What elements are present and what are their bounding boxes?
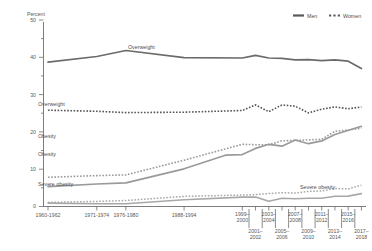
svg-text:1976-1980: 1976-1980: [113, 212, 138, 218]
series-line-severe-obesity-men: [48, 194, 361, 204]
series-line-obesity-women: [48, 128, 361, 177]
svg-text:2014: 2014: [329, 234, 341, 240]
svg-text:2001–: 2001–: [248, 228, 263, 234]
svg-text:40: 40: [30, 54, 36, 60]
svg-text:30: 30: [30, 92, 36, 98]
svg-text:2018: 2018: [356, 234, 368, 240]
svg-text:0: 0: [33, 203, 36, 209]
svg-text:2004: 2004: [263, 217, 275, 223]
legend-label-women: Women: [343, 13, 361, 19]
svg-text:2015–: 2015–: [341, 211, 356, 217]
annotation-severe-obesity-men: Severe obesity: [300, 184, 335, 190]
svg-text:20: 20: [30, 129, 36, 135]
x-axis-labels-row1: 1960-1962 1971-1974 1976-1980 1988-1994: [36, 212, 197, 218]
svg-text:2006: 2006: [276, 234, 288, 240]
annotation-obesity-women: Obesity: [38, 133, 56, 139]
svg-text:1988-1994: 1988-1994: [172, 212, 197, 218]
series-line-obesity-men: [48, 126, 361, 186]
svg-text:10: 10: [30, 166, 36, 172]
svg-text:2002: 2002: [250, 234, 262, 240]
legend-label-men: Men: [307, 13, 317, 19]
svg-text:2009–: 2009–: [301, 228, 316, 234]
svg-text:2011–: 2011–: [315, 211, 329, 217]
line-chart-canvas: Percent 0 10 20 30 40 50: [0, 0, 372, 251]
y-axis-labels: 0 10 20 30 40 50: [30, 17, 36, 210]
svg-text:2008: 2008: [289, 217, 301, 223]
svg-text:1999–: 1999–: [235, 211, 250, 217]
annotation-overweight-women: Overweight: [38, 101, 65, 107]
annotation-obesity-men: Obesity: [38, 151, 56, 157]
chart-legend: Men Women: [293, 13, 361, 19]
svg-text:2010: 2010: [303, 234, 315, 240]
series-line-overweight-women: [48, 105, 361, 113]
svg-text:2007–: 2007–: [288, 211, 303, 217]
annotation-overweight-men: Overweight: [128, 44, 155, 50]
svg-text:1971-1974: 1971-1974: [84, 212, 109, 218]
svg-text:50: 50: [30, 17, 36, 23]
svg-text:2000: 2000: [237, 217, 249, 223]
svg-text:2012: 2012: [316, 217, 328, 223]
x-axis-labels-row2-periods: 2001– 2002 2005– 2006 2009– 2010 2013– 2…: [248, 228, 368, 241]
svg-text:2003–: 2003–: [262, 211, 277, 217]
series-line-overweight-men: [48, 51, 361, 69]
annotation-severe-obesity-women: Severe obesity: [38, 181, 73, 187]
svg-text:2016: 2016: [342, 217, 354, 223]
svg-text:2005–: 2005–: [275, 228, 290, 234]
svg-text:2013–: 2013–: [328, 228, 343, 234]
x-axis-labels-row1-periods: 1999– 2000 2003– 2004 2007– 2008 2011– 2…: [235, 211, 355, 224]
svg-text:2017–: 2017–: [354, 228, 369, 234]
y-axis-ticks: [39, 20, 44, 207]
svg-text:1960-1962: 1960-1962: [36, 212, 61, 218]
chart-figure: Percent 0 10 20 30 40 50: [0, 0, 372, 251]
